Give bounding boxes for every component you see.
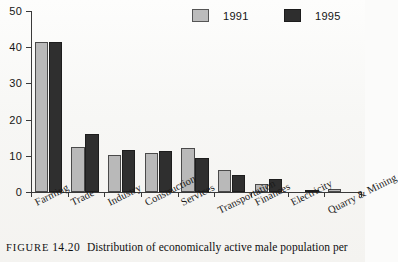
y-tick-label: 40 (9, 41, 22, 53)
caption-text: Distribution of economically active male… (87, 241, 348, 253)
y-tick-label: 10 (9, 150, 22, 162)
bar-1991-transportation (218, 170, 232, 192)
bar-group-electricity (291, 11, 319, 192)
bar-group-finances (255, 11, 283, 192)
bar-1991-farming (35, 42, 49, 192)
bar-1991-construction (145, 153, 159, 192)
bar-group-quarry-mining (328, 11, 356, 192)
y-tick-label: 30 (9, 77, 22, 89)
bar-1995-farming (49, 42, 63, 192)
bar-groups (31, 11, 361, 192)
figure-caption: FIGURE 14.20 Distribution of economicall… (6, 241, 362, 253)
y-tick-label: 50 (9, 5, 22, 17)
bar-group-construction (145, 11, 173, 192)
bar-1995-trade (85, 134, 99, 192)
bar-1995-transportation (232, 175, 246, 192)
bar-group-industry (108, 11, 136, 192)
bar-group-services (181, 11, 209, 192)
y-tick-label: 20 (9, 114, 22, 126)
bar-group-farming (35, 11, 63, 192)
bar-1991-trade (71, 147, 85, 192)
caption-label: FIGURE (6, 242, 49, 253)
bar-1991-industry (108, 155, 122, 192)
caption-number: 14.20 (52, 241, 80, 253)
x-axis-labels: FarmingTradeIndustryConstructionServices… (0, 196, 365, 242)
bar-group-transportation (218, 11, 246, 192)
bar-1991-quarry-mining (328, 189, 342, 192)
bar-group-trade (71, 11, 99, 192)
